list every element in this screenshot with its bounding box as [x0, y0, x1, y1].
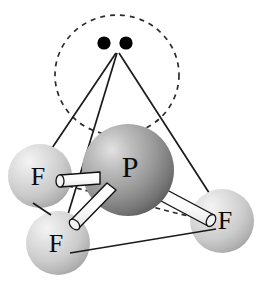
tetra-edge-fbottom-fright — [70, 229, 216, 253]
electron-dot-right — [119, 36, 132, 49]
molecule-figure: P F F F — [0, 0, 267, 286]
electron-dot-left — [97, 36, 110, 49]
bond-p-fleft — [56, 172, 100, 187]
molecule-canvas: P F F F — [0, 0, 267, 286]
